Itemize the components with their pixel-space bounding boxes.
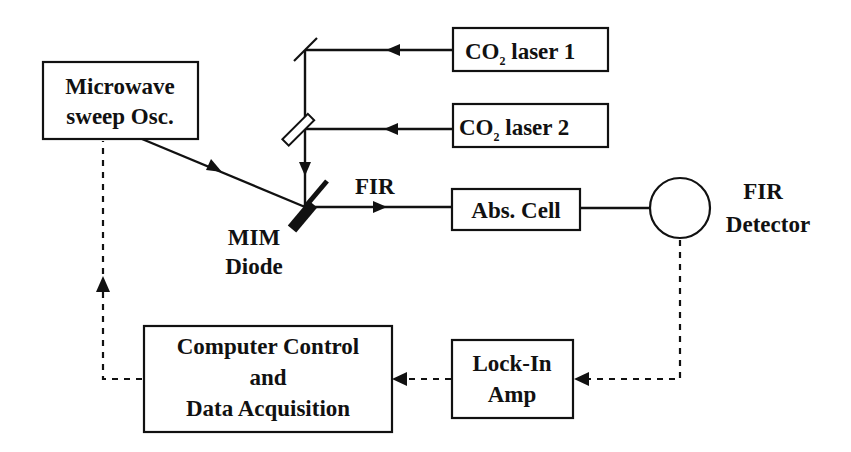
absorption-cell-label: Abs. Cell (471, 198, 560, 223)
detector-to-lockin-signal (574, 240, 680, 386)
mim-label-line2: Diode (225, 254, 283, 279)
fir-beam (305, 201, 452, 213)
co2-laser-2-label: CO2 laser 2 (459, 115, 569, 144)
lockin-to-computer-signal (392, 372, 451, 386)
lockin-label-line2: Amp (488, 382, 537, 407)
microwave-label-line2: sweep Osc. (66, 104, 173, 129)
microwave-feed-line (142, 139, 305, 207)
absorption-cell-box: Abs. Cell (452, 189, 580, 230)
computer-label-line1: Computer Control (177, 334, 360, 359)
detector-circle-icon (650, 178, 710, 238)
computer-control-box: Computer Control and Data Acquisition (144, 326, 392, 432)
lock-in-amplifier-box: Lock-In Amp (452, 340, 573, 418)
detector-label-line2: Detector (726, 212, 810, 237)
arrow-left-icon (386, 44, 400, 56)
arrow-left-icon (384, 123, 398, 135)
detector-label-line1: FIR (743, 179, 783, 204)
laser2-beam (305, 123, 453, 135)
lockin-label-line1: Lock-In (472, 351, 551, 376)
microwave-label-line1: Microwave (65, 74, 174, 99)
co2-laser-1-box: CO2 laser 1 (453, 28, 608, 71)
arrow-left-icon (392, 372, 407, 386)
computer-label-line3: Data Acquisition (186, 396, 350, 421)
mim-label-line1: MIM (228, 225, 281, 250)
co2-laser-2-box: CO2 laser 2 (453, 104, 608, 147)
arrow-up-icon (96, 276, 110, 292)
computer-label-line2: and (249, 365, 286, 390)
computer-to-microwave-control (96, 141, 142, 379)
microwave-sweep-oscillator-box: Microwave sweep Osc. (43, 62, 198, 139)
fir-detector: FIR Detector (650, 178, 810, 238)
laser1-beam (305, 44, 453, 56)
arrow-right-icon (373, 201, 387, 213)
co2-laser-1-label: CO2 laser 1 (465, 39, 575, 68)
arrow-down-icon (299, 162, 311, 176)
arrow-diagonal-icon (206, 159, 222, 172)
setup-diagram: FIR Microwave sweep Osc. CO2 laser 1 CO2… (0, 0, 851, 452)
fir-beam-label: FIR (355, 174, 395, 199)
arrow-left-icon (574, 372, 589, 386)
